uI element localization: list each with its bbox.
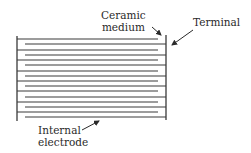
internal-electrodes bbox=[17, 39, 166, 117]
terminal-label-text: Terminal bbox=[193, 16, 240, 28]
terminal-label: Terminal bbox=[193, 16, 240, 28]
ceramic-medium-arrow bbox=[152, 27, 161, 35]
internal-electrode-label: Internal electrode bbox=[38, 124, 88, 148]
ceramic-medium-label-line1: Ceramic bbox=[101, 9, 146, 21]
terminal-arrow bbox=[172, 30, 193, 45]
internal-electrode-label-line2: electrode bbox=[38, 136, 88, 148]
ceramic-medium-label-line2: medium bbox=[101, 21, 146, 33]
ceramic-medium-label: Ceramic medium bbox=[101, 9, 146, 33]
internal-electrode-label-line1: Internal bbox=[38, 124, 88, 136]
